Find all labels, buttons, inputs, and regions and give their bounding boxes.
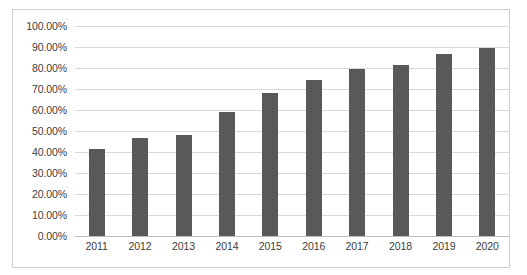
y-axis: 0.00%10.00%20.00%30.00%40.00%50.00%60.00… <box>13 10 75 269</box>
x-axis-tick-label: 2013 <box>172 240 195 252</box>
x-axis-tick-label: 2012 <box>129 240 152 252</box>
y-axis-tick-label: 100.00% <box>26 20 67 32</box>
x-axis-tick-label: 2011 <box>86 240 108 252</box>
y-axis-tick-label: 10.00% <box>32 209 67 221</box>
bar <box>132 138 148 236</box>
plot-area <box>75 26 509 236</box>
y-axis-tick-label: 30.00% <box>32 167 67 179</box>
x-axis-tick-label: 2015 <box>259 240 282 252</box>
bar <box>262 93 278 236</box>
x-axis-tick-label: 2018 <box>389 240 412 252</box>
bar <box>479 48 495 236</box>
y-axis-tick-label: 80.00% <box>32 62 67 74</box>
bar <box>349 69 365 236</box>
x-axis-tick-label: 2016 <box>302 240 325 252</box>
bar <box>436 54 452 236</box>
y-axis-tick-label: 60.00% <box>32 104 67 116</box>
y-axis-tick-label: 70.00% <box>32 83 67 95</box>
gridline <box>75 236 509 237</box>
x-axis-tick-label: 2019 <box>432 240 455 252</box>
x-axis: 2011201220132014201520162017201820192020 <box>75 240 509 260</box>
x-axis-tick-label: 2020 <box>476 240 499 252</box>
gridline <box>75 47 509 48</box>
bar <box>219 112 235 236</box>
bar <box>393 65 409 236</box>
y-axis-tick-label: 90.00% <box>32 41 67 53</box>
x-axis-tick-label: 2017 <box>346 240 369 252</box>
gridline <box>75 26 509 27</box>
bar <box>306 80 322 236</box>
y-axis-tick-label: 0.00% <box>38 230 67 242</box>
y-axis-tick-label: 40.00% <box>32 146 67 158</box>
y-axis-tick-label: 20.00% <box>32 188 67 200</box>
bar <box>89 149 105 236</box>
bar <box>176 135 192 236</box>
chart-frame: 0.00%10.00%20.00%30.00%40.00%50.00%60.00… <box>12 9 510 268</box>
x-axis-tick-label: 2014 <box>215 240 238 252</box>
y-axis-tick-label: 50.00% <box>32 125 67 137</box>
